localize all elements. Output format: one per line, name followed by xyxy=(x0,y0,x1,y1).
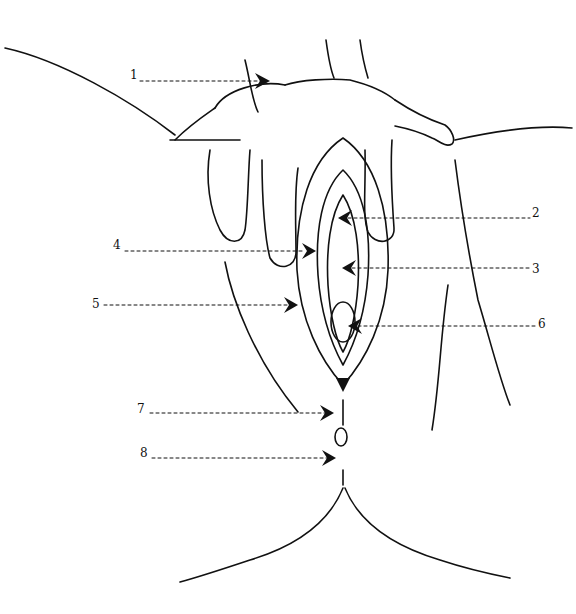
label-6: 6 xyxy=(538,317,546,331)
label-5: 5 xyxy=(92,297,100,311)
label-4: 4 xyxy=(113,238,121,252)
label-3: 3 xyxy=(532,262,540,276)
label-8: 8 xyxy=(140,446,148,460)
anatomy-diagram: 1 2 3 4 5 6 7 8 xyxy=(0,0,576,614)
label-1: 1 xyxy=(130,68,138,82)
line-art xyxy=(0,0,576,614)
label-7: 7 xyxy=(137,402,145,416)
label-2: 2 xyxy=(532,206,540,220)
